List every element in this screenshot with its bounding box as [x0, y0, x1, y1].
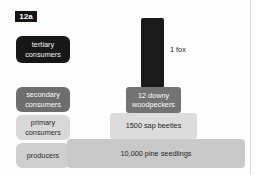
pyramid-bar-label-tertiary: 1 fox [170, 45, 186, 54]
trophic-level-tertiary-consumers: tertiary consumers [16, 36, 70, 63]
trophic-level-label: secondary consumers [25, 90, 61, 109]
pyramid-bar-label-secondary: 12 downy woodpeckers [132, 91, 175, 110]
trophic-level-label: primary consumers [25, 118, 61, 137]
trophic-level-producers: producers [16, 143, 70, 168]
pyramid-bar-label-primary: 1500 sap beetles [126, 121, 182, 131]
pyramid-bar-label-producers: 10,000 pine seedlings [121, 149, 192, 159]
trophic-level-primary-consumers: primary consumers [16, 115, 70, 140]
pyramid-bar-producers: 10,000 pine seedlings [67, 139, 245, 168]
page-margin [251, 0, 262, 175]
pyramid-bar-secondary: 12 downy woodpeckers [126, 87, 181, 113]
trophic-level-label: tertiary consumers [25, 40, 61, 59]
ecological-pyramid-figure: 12a tertiary consumers secondary consume… [0, 0, 262, 175]
trophic-level-label: producers [27, 151, 59, 161]
trophic-level-secondary-consumers: secondary consumers [16, 87, 70, 112]
pyramid-bar-primary: 1500 sap beetles [110, 113, 197, 139]
pyramid-bar-tertiary [141, 18, 164, 88]
figure-number-badge: 12a [15, 11, 37, 22]
